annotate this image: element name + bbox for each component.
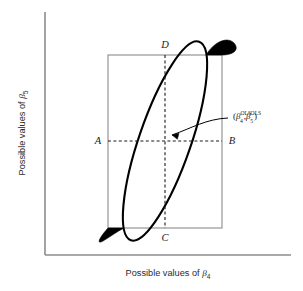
- shaded-region-top-right: [206, 40, 236, 55]
- ols-annotation-arrow: [172, 118, 228, 139]
- y-axis-label-subscript: 5: [22, 90, 29, 94]
- shaded-region-bottom-left: [99, 228, 124, 242]
- figure-canvas: A B C D (βOLS4,βOLS5) Possible values of…: [0, 0, 303, 291]
- corner-label-d: D: [160, 39, 169, 50]
- reference-dashed-lines: [108, 55, 222, 228]
- ols-close-paren: ): [254, 111, 257, 121]
- svg-text:(βOLS4,βOLS5): (βOLS4,βOLS5): [233, 110, 261, 124]
- ols-subscript-x: 4: [240, 118, 243, 124]
- corner-label-b: B: [229, 135, 236, 146]
- x-axis-label-subscript: 4: [207, 273, 211, 280]
- y-axis-label: Possible values of β5: [17, 90, 29, 175]
- ols-estimate-label: (βOLS4,βOLS5): [233, 110, 261, 124]
- y-axis-label-prefix: Possible values of: [17, 99, 27, 176]
- x-axis-label-prefix: Possible values of: [126, 268, 203, 278]
- x-axis-label: Possible values of β4: [126, 268, 211, 280]
- corner-label-c: C: [161, 232, 169, 243]
- ols-subscript-y: 5: [250, 118, 253, 124]
- corner-label-a: A: [94, 135, 102, 146]
- confidence-region-figure: A B C D (βOLS4,βOLS5) Possible values of…: [0, 0, 303, 291]
